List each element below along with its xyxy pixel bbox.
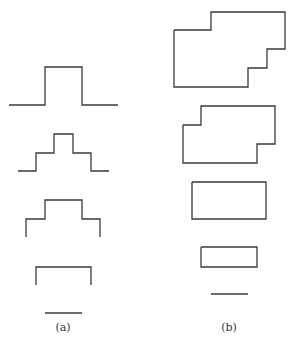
polygon-3 [192,182,266,219]
panel-b: (b) [174,12,285,334]
panel-b-label: (b) [221,321,237,334]
panel-a: (a) [9,67,118,334]
panel-a-label: (a) [55,321,70,334]
polygon-1 [174,12,285,87]
step-pulse-4 [36,267,91,285]
polygon-4 [201,247,257,267]
step-pulse-2 [18,134,109,171]
polygon-2 [183,106,275,163]
step-pulse-3 [26,200,100,237]
figure-canvas: (a) (b) [0,0,293,343]
step-pulse-1 [9,67,118,105]
